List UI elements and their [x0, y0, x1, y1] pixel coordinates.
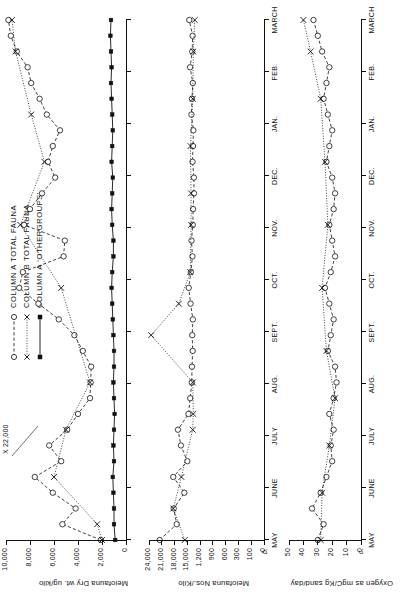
x-tick-label-nov: NOV.: [271, 206, 278, 250]
panel-a: Meiofauna Dry wt. ug/kilo 02,0004,0006,0…: [0, 0, 145, 610]
x-tick-mark: [126, 279, 131, 280]
x-tick-label-may: MAY: [368, 518, 375, 562]
y-tick-label: 18,000: [170, 548, 177, 596]
y-tick-label: 600: [221, 548, 228, 596]
y-tick-label: 10,000: [1, 548, 8, 596]
x-tick-mark: [126, 175, 131, 176]
panel-b-x-axis: [264, 20, 265, 541]
x-tick-mark: [264, 331, 269, 332]
x-tick-mark: [361, 227, 366, 228]
x-tick-label-june: JUNE: [271, 466, 278, 510]
panel-c-x-axis: [361, 20, 362, 541]
x-tick-mark: [361, 279, 366, 280]
x-tick-mark: [361, 487, 366, 488]
x-tick-label-jan: JAN.: [271, 102, 278, 146]
panel-a-x-axis: [126, 20, 127, 541]
x-tick-label-feb: FEB.: [368, 50, 375, 94]
x-tick-mark: [361, 539, 366, 540]
y-tick-label: 8,000: [25, 548, 32, 596]
y-tick-mark: [264, 540, 265, 545]
y-tick-mark: [303, 540, 304, 545]
x-tick-label-may: MAY: [271, 518, 278, 562]
x-tick-mark: [264, 123, 269, 124]
panel-b-y-axis: [149, 540, 264, 541]
rotated-figure-wrapper: COLUMN A TOTAL FAUNA COLUMN B TOTAL FAUN…: [0, 0, 409, 610]
x-tick-mark: [264, 539, 269, 540]
figure: COLUMN A TOTAL FAUNA COLUMN B TOTAL FAUN…: [0, 0, 409, 610]
x-tick-label-july: JULY: [368, 414, 375, 458]
panel-a-plot: [6, 20, 126, 540]
y-tick-mark: [6, 540, 7, 545]
x-tick-mark: [264, 71, 269, 72]
y-tick-label: 24,000: [144, 548, 151, 596]
x-tick-label-dec: DEC.: [271, 154, 278, 198]
x-tick-mark: [361, 435, 366, 436]
x-tick-mark: [126, 487, 131, 488]
y-tick-mark: [54, 540, 55, 545]
x-tick-mark: [126, 227, 131, 228]
y-tick-label: 20: [327, 548, 334, 596]
y-tick-label: 4,000: [73, 548, 80, 596]
y-tick-mark: [251, 540, 252, 545]
x-tick-mark: [126, 331, 131, 332]
x-tick-label-march: MARCH: [368, 0, 375, 42]
x-tick-label-oct: OCT.: [271, 258, 278, 302]
panel-a-series-svg: [6, 20, 126, 540]
x-tick-label-sept: SEPT.: [271, 310, 278, 354]
y-tick-mark: [238, 540, 239, 545]
x-tick-label-july: JULY: [271, 414, 278, 458]
y-tick-label: 30: [313, 548, 320, 596]
x-tick-mark: [264, 175, 269, 176]
x-tick-mark: [264, 19, 269, 20]
y-tick-mark: [289, 540, 290, 545]
panel-c: c. Oxygen as mgC/Kg sand/day 01020304050…: [285, 0, 409, 610]
y-tick-mark: [149, 540, 150, 545]
x-tick-label-oct: OCT.: [368, 258, 375, 302]
panel-c-plot: [289, 20, 361, 540]
x-tick-mark: [126, 19, 131, 20]
x-tick-mark: [264, 435, 269, 436]
y-tick-mark: [332, 540, 333, 545]
x-tick-mark: [264, 279, 269, 280]
y-tick-label: 21,000: [157, 548, 164, 596]
y-tick-mark: [161, 540, 162, 545]
y-tick-mark: [346, 540, 347, 545]
x-tick-label-aug: AUG.: [368, 362, 375, 406]
y-tick-mark: [102, 540, 103, 545]
x-tick-mark: [361, 383, 366, 384]
annotation-x22000: X 22,000: [2, 424, 9, 454]
x-tick-label-march: MARCH: [271, 0, 278, 42]
y-tick-label: 40: [298, 548, 305, 596]
panel-b: b. Meiofauna Nos./Kilo 01003006009001,20…: [145, 0, 285, 610]
x-tick-mark: [361, 123, 366, 124]
y-tick-mark: [126, 540, 127, 545]
x-tick-mark: [361, 331, 366, 332]
x-tick-mark: [126, 539, 131, 540]
panel-b-plot: [149, 20, 264, 540]
y-tick-label: 6,000: [49, 548, 56, 596]
y-tick-mark: [78, 540, 79, 545]
panel-c-y-axis: [289, 540, 361, 541]
x-tick-mark: [126, 71, 131, 72]
y-tick-mark: [225, 540, 226, 545]
y-tick-label: 300: [233, 548, 240, 596]
y-tick-label: 0: [259, 548, 266, 596]
y-tick-label: 1,200: [195, 548, 202, 596]
y-tick-mark: [361, 540, 362, 545]
y-tick-mark: [187, 540, 188, 545]
x-tick-label-nov: NOV.: [368, 206, 375, 250]
y-tick-mark: [212, 540, 213, 545]
x-tick-label-jan: JAN.: [368, 102, 375, 146]
y-tick-label: 0: [121, 548, 128, 596]
y-tick-label: 15,000: [182, 548, 189, 596]
y-tick-label: 50: [284, 548, 291, 596]
y-tick-label: 100: [246, 548, 253, 596]
x-tick-mark: [126, 123, 131, 124]
y-tick-mark: [200, 540, 201, 545]
x-tick-mark: [361, 71, 366, 72]
y-tick-label: 2,000: [97, 548, 104, 596]
x-tick-mark: [361, 175, 366, 176]
y-tick-mark: [317, 540, 318, 545]
y-tick-mark: [30, 540, 31, 545]
x-tick-label-aug: AUG.: [271, 362, 278, 406]
